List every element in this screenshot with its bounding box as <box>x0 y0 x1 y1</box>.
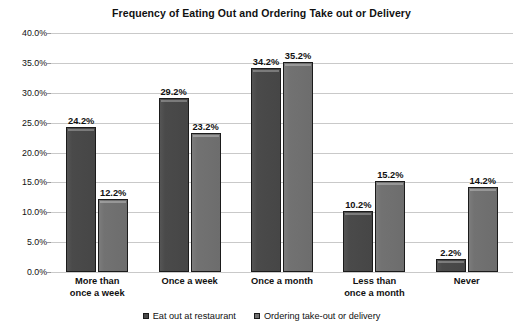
bar-group: 10.2%15.2% <box>328 33 420 272</box>
bar-highlight <box>285 64 311 66</box>
x-axis-tick-label-line: Never <box>421 276 513 288</box>
legend-swatch-icon <box>254 313 260 319</box>
y-axis-tick-label: 10.0% <box>3 207 47 217</box>
x-axis: More thanonce a weekOnce a weekOnce a mo… <box>51 276 513 308</box>
bar-highlight <box>470 189 496 191</box>
bar-0[interactable]: 34.2% <box>251 68 281 272</box>
y-axis-tick-label: 30.0% <box>3 88 47 98</box>
plot-area: 24.2%12.2%29.2%23.2%34.2%35.2%10.2%15.2%… <box>51 33 513 272</box>
y-axis-tick-label: 15.0% <box>3 177 47 187</box>
bar-highlight <box>161 100 187 102</box>
x-axis-tick-label-line: More than <box>51 276 143 288</box>
bar-1[interactable]: 23.2% <box>191 133 221 272</box>
bar-1[interactable]: 35.2% <box>283 62 313 272</box>
x-axis-tick-label-line: once a month <box>328 288 420 300</box>
chart-legend: Eat out at restaurantOrdering take-out o… <box>0 311 523 321</box>
bar-value-label: 35.2% <box>285 51 311 61</box>
bar-highlight <box>100 201 126 203</box>
x-axis-tick-label: Once a week <box>143 276 235 288</box>
bar-value-label: 23.2% <box>192 122 218 132</box>
legend-label: Ordering take-out or delivery <box>264 311 380 321</box>
legend-item-0[interactable]: Eat out at restaurant <box>143 311 236 321</box>
x-axis-tick-label-line: Less than <box>328 276 420 288</box>
y-axis-tick-label: 0.0% <box>3 267 47 277</box>
bar-1[interactable]: 15.2% <box>375 181 405 272</box>
chart-title: Frequency of Eating Out and Ordering Tak… <box>0 7 523 19</box>
x-axis-tick-label-line: Once a week <box>143 276 235 288</box>
x-axis-tick-label-line: Once a month <box>236 276 328 288</box>
bar-highlight <box>193 135 219 137</box>
bar-1[interactable]: 14.2% <box>468 187 498 272</box>
bar-value-label: 2.2% <box>440 248 461 258</box>
bar-group: 34.2%35.2% <box>236 33 328 272</box>
bar-group: 24.2%12.2% <box>51 33 143 272</box>
bar-0[interactable]: 24.2% <box>66 127 96 272</box>
bar-0[interactable]: 29.2% <box>159 98 189 272</box>
bar-0[interactable]: 2.2% <box>436 259 466 272</box>
bar-highlight <box>438 261 464 263</box>
y-axis: 0.0%5.0%10.0%15.0%20.0%25.0%30.0%35.0%40… <box>0 33 47 272</box>
x-axis-tick-label: Never <box>421 276 513 288</box>
bar-value-label: 14.2% <box>470 176 496 186</box>
gridline <box>51 272 513 273</box>
y-axis-tick-label: 25.0% <box>3 118 47 128</box>
x-axis-tick-label: More thanonce a week <box>51 276 143 299</box>
x-axis-tick-label-line: once a week <box>51 288 143 300</box>
bar-highlight <box>253 70 279 72</box>
bar-chart: Frequency of Eating Out and Ordering Tak… <box>0 0 523 331</box>
y-axis-tick-label: 40.0% <box>3 28 47 38</box>
y-axis-tick-label: 20.0% <box>3 148 47 158</box>
bar-highlight <box>377 183 403 185</box>
bar-value-label: 10.2% <box>345 200 371 210</box>
bar-1[interactable]: 12.2% <box>98 199 128 272</box>
bar-value-label: 24.2% <box>68 116 94 126</box>
bar-value-label: 12.2% <box>100 188 126 198</box>
bar-highlight <box>68 129 94 131</box>
legend-swatch-icon <box>143 313 149 319</box>
legend-label: Eat out at restaurant <box>153 311 236 321</box>
bar-0[interactable]: 10.2% <box>343 211 373 272</box>
legend-item-1[interactable]: Ordering take-out or delivery <box>254 311 380 321</box>
y-axis-tick-label: 5.0% <box>3 237 47 247</box>
bar-group: 29.2%23.2% <box>143 33 235 272</box>
bar-value-label: 29.2% <box>160 87 186 97</box>
bar-group: 2.2%14.2% <box>421 33 513 272</box>
bar-value-label: 34.2% <box>253 57 279 67</box>
y-axis-tick-label: 35.0% <box>3 58 47 68</box>
x-axis-tick-label: Less thanonce a month <box>328 276 420 299</box>
bar-value-label: 15.2% <box>377 170 403 180</box>
bar-highlight <box>345 213 371 215</box>
x-axis-tick-label: Once a month <box>236 276 328 288</box>
